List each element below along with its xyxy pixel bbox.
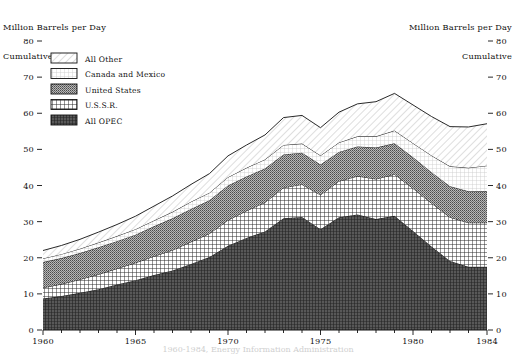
y-tick-label-left: 10 — [23, 289, 34, 299]
y-tick-label-left: 60 — [23, 108, 34, 118]
y-tick-label-left: 50 — [23, 144, 34, 154]
y-tick-label-left: 80 — [23, 36, 34, 46]
legend-swatch-u-s-s-r — [51, 100, 77, 110]
y-tick-label-right: 60 — [496, 108, 507, 118]
area-layers — [43, 93, 487, 330]
legend-label-united-states: United States — [85, 86, 141, 95]
y-tick-label-right: 30 — [496, 217, 507, 227]
y-tick-label-left: 20 — [23, 253, 34, 263]
legend-swatch-all-other — [51, 53, 77, 63]
legend-swatch-all-opec — [51, 115, 77, 125]
chart-root: Million Barrels per Day Cumulative Milli… — [0, 0, 516, 354]
y-tick-label-left: 70 — [23, 72, 34, 82]
y-tick-label-left: 0 — [29, 325, 34, 335]
legend-label-u-s-s-r: U.S.S.R. — [85, 101, 118, 110]
y-tick-label-right: 70 — [496, 72, 507, 82]
stacked-area-chart: 1960196519701975198019840010102020303040… — [0, 0, 516, 354]
legend-label-all-other: All Other — [84, 55, 122, 64]
y-tick-label-right: 0 — [496, 325, 501, 335]
y-tick-label-right: 10 — [496, 289, 507, 299]
y-tick-label-right: 40 — [496, 181, 507, 191]
legend-swatch-canada-and-mexico — [51, 69, 77, 79]
y-tick-label-left: 40 — [23, 181, 34, 191]
y-tick-label-right: 20 — [496, 253, 507, 263]
legend-swatch-united-states — [51, 84, 77, 94]
source-note: 1960-1984, Energy Information Administra… — [0, 345, 516, 354]
y-tick-label-left: 30 — [23, 217, 34, 227]
legend-label-canada-and-mexico: Canada and Mexico — [85, 70, 165, 79]
chart-legend: All OtherCanada and MexicoUnited StatesU… — [51, 53, 165, 126]
y-tick-label-right: 80 — [496, 36, 507, 46]
legend-label-all-opec: All OPEC — [84, 117, 122, 126]
y-tick-label-right: 50 — [496, 144, 507, 154]
